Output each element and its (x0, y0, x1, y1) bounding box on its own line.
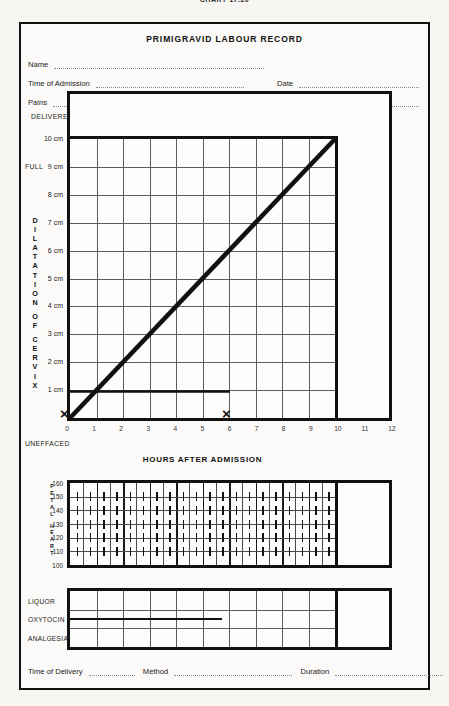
partograph-grid[interactable] (67, 136, 338, 421)
field-name-input[interactable] (54, 61, 264, 69)
fetal-heart-tick (196, 520, 197, 529)
fetal-heart-tick (262, 520, 263, 529)
fetal-heart-tick (169, 547, 170, 556)
fetal-heart-tick (302, 547, 303, 556)
fetal-heart-tick (143, 520, 144, 529)
partograph-hgrid-line (70, 195, 335, 196)
partograph-x-tick-8: 8 (277, 425, 291, 432)
fetal-heart-tick (289, 547, 290, 556)
footer-method-input[interactable] (174, 668, 292, 676)
fetal-heart-tick (262, 533, 263, 542)
partograph-hgrid-line (70, 306, 335, 307)
fetal-heart-tick (222, 547, 223, 556)
fetal-heart-tick (222, 506, 223, 515)
fetal-heart-tick (77, 547, 78, 556)
footer-method-label: Method (143, 667, 168, 676)
fetal-heart-tick (328, 520, 329, 529)
fetal-heart-tick (156, 520, 157, 529)
fetal-heart-tick (209, 520, 210, 529)
fetal-heart-tick (130, 506, 131, 515)
fetal-heart-y-tick-130: 130 (40, 521, 63, 528)
footer-time-of-delivery-input[interactable] (89, 668, 135, 676)
fetal-heart-hgrid-line (70, 538, 335, 539)
fetal-heart-tick (90, 547, 91, 556)
fetal-heart-tick (289, 506, 290, 515)
fetal-heart-tick (315, 533, 316, 542)
partograph-x-axis (67, 418, 392, 421)
fetal-heart-tick (275, 506, 276, 515)
partograph-y-tick-5: 5 cm (23, 275, 63, 282)
field-time-of-admission-input[interactable] (96, 80, 244, 88)
fetal-heart-tick (169, 506, 170, 515)
bottom-row-label-oxytocin: OXYTOCIN (28, 616, 65, 623)
partograph-y-tick-8: 8 cm (23, 191, 63, 198)
fetal-heart-y-tick-120: 120 (40, 534, 63, 541)
field-date-label: Date (277, 79, 293, 88)
partograph-x-tick-4: 4 (168, 425, 182, 432)
fetal-heart-tick (222, 492, 223, 501)
field-date-input[interactable] (299, 80, 419, 88)
fetal-heart-tick (236, 492, 237, 501)
fetal-heart-grid[interactable] (67, 480, 338, 568)
partograph-y-tick-4: 4 cm (23, 302, 63, 309)
fetal-heart-tick (249, 547, 250, 556)
field-time-of-admission: Time of Admission (28, 79, 244, 88)
bottom-row-label-analgesia: ANALGESIA (28, 635, 68, 642)
fetal-heart-tick (209, 506, 210, 515)
fetal-heart-tick (77, 533, 78, 542)
fetal-heart-tick (196, 506, 197, 515)
fetal-heart-tick (143, 533, 144, 542)
partograph-x-tick-10: 10 (331, 425, 345, 432)
partograph-y-tick-10: 10 cm (23, 135, 63, 142)
bottom-panel-hgrid-line (70, 628, 335, 629)
field-name: Name (28, 60, 264, 69)
fetal-heart-tick (262, 547, 263, 556)
fetal-heart-tick (103, 533, 104, 542)
fetal-heart-tick (130, 533, 131, 542)
partograph-hgrid-line (70, 279, 335, 280)
fetal-heart-tick (183, 547, 184, 556)
fetal-heart-tick (143, 506, 144, 515)
fetal-heart-tick (156, 533, 157, 542)
partograph-hgrid-line (70, 334, 335, 335)
fetal-heart-tick (289, 492, 290, 501)
fetal-heart-tick (183, 492, 184, 501)
fetal-heart-tick (249, 506, 250, 515)
partograph-y-tick-2: 2 cm (23, 358, 63, 365)
fetal-heart-tick (169, 533, 170, 542)
fetal-heart-y-tick-140: 140 (40, 507, 63, 514)
footer-duration-input[interactable] (335, 668, 443, 676)
fetal-heart-tick (130, 547, 131, 556)
partograph-x-tick-2: 2 (114, 425, 128, 432)
fetal-heart-tick (289, 533, 290, 542)
fetal-heart-tick (143, 547, 144, 556)
fetal-heart-tick (236, 520, 237, 529)
fetal-heart-hgrid-line (70, 524, 335, 525)
partograph-y-tick-6: 6 cm (23, 247, 63, 254)
fetal-heart-tick (236, 533, 237, 542)
fetal-heart-tick (183, 520, 184, 529)
partograph-x-tick-11: 11 (358, 425, 372, 432)
partograph-x-tick-9: 9 (304, 425, 318, 432)
fetal-heart-tick (249, 492, 250, 501)
fetal-heart-hgrid-line (70, 510, 335, 511)
fetal-heart-tick (196, 492, 197, 501)
fetal-heart-tick (275, 533, 276, 542)
fetal-heart-tick (302, 520, 303, 529)
fetal-heart-tick (315, 506, 316, 515)
fetal-heart-tick (236, 547, 237, 556)
bottom-panel-hgrid-line (70, 610, 335, 611)
partograph-hgrid-line (70, 362, 335, 363)
fetal-heart-tick (77, 506, 78, 515)
fetal-heart-tick (262, 492, 263, 501)
fetal-heart-tick (315, 547, 316, 556)
partograph-x-tick-5: 5 (195, 425, 209, 432)
fetal-heart-tick (156, 506, 157, 515)
bottom-panel-vgrid-line (282, 591, 283, 647)
fetal-heart-tick (222, 533, 223, 542)
bottom-row-label-liquor: LIQUOR (28, 598, 55, 605)
field-date: Date (277, 79, 419, 88)
fetal-heart-tick (196, 547, 197, 556)
fetal-heart-tick (328, 547, 329, 556)
fetal-heart-tick (328, 492, 329, 501)
